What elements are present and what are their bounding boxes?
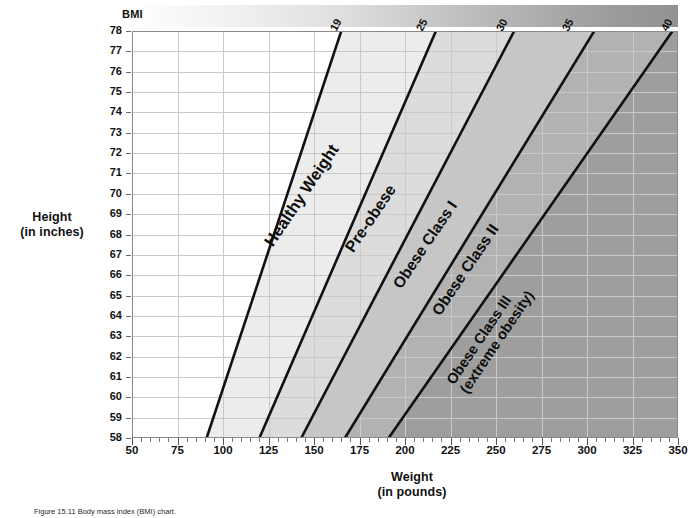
x-minor-tick [469,438,470,442]
x-tick-label-175: 175 [340,444,380,456]
x-tick-label-350: 350 [658,444,688,456]
x-tick-200 [405,438,406,445]
x-minor-tick [642,438,643,442]
x-tick-50 [132,438,133,445]
x-tick-100 [223,438,224,445]
x-axis-title-line1: Weight [332,470,492,485]
x-minor-tick [214,438,215,442]
x-minor-tick [159,438,160,442]
x-axis-title-line2: (in pounds) [332,485,492,500]
x-tick-label-325: 325 [613,444,653,456]
x-minor-tick [241,438,242,442]
x-tick-label-275: 275 [522,444,562,456]
y-tick-61 [126,377,131,378]
y-tick-63 [126,336,131,337]
y-tick-68 [126,235,131,236]
x-minor-tick [478,438,479,442]
x-tick-label-100: 100 [203,444,243,456]
x-minor-tick [387,438,388,442]
y-tick-76 [126,72,131,73]
x-tick-label-75: 75 [158,444,198,456]
y-tick-58 [126,438,131,439]
x-minor-tick [532,438,533,442]
x-minor-tick [369,438,370,442]
y-tick-label-78: 78 [96,24,122,36]
y-axis-title: Height (in inches) [0,210,104,240]
bmi-legend-title: BMI [122,8,143,20]
y-tick-72 [126,153,131,154]
y-tick-label-61: 61 [96,370,122,382]
y-tick-70 [126,194,131,195]
y-tick-60 [126,397,131,398]
x-minor-tick [551,438,552,442]
y-tick-label-70: 70 [96,187,122,199]
y-tick-62 [126,357,131,358]
x-minor-tick [605,438,606,442]
x-minor-tick [332,438,333,442]
y-tick-label-63: 63 [96,329,122,341]
x-minor-tick [560,438,561,442]
x-minor-tick [432,438,433,442]
y-tick-label-60: 60 [96,390,122,402]
x-minor-tick [487,438,488,442]
figure-caption: Figure 15.11 Body mass index (BMI) chart… [34,507,654,516]
y-tick-64 [126,316,131,317]
y-tick-77 [126,51,131,52]
x-tick-label-200: 200 [385,444,425,456]
plot-area: Healthy Weight Pre-obese Obese Class I O… [132,31,678,438]
x-minor-tick [341,438,342,442]
x-minor-tick [614,438,615,442]
x-tick-175 [360,438,361,445]
y-tick-label-76: 76 [96,65,122,77]
y-tick-label-74: 74 [96,105,122,117]
y-tick-label-73: 73 [96,126,122,138]
x-tick-label-125: 125 [249,444,289,456]
y-tick-label-59: 59 [96,411,122,423]
x-tick-125 [269,438,270,445]
y-tick-label-68: 68 [96,228,122,240]
gridlines [132,31,678,438]
x-minor-tick [305,438,306,442]
x-minor-tick [296,438,297,442]
bmi-chart-figure: Height (in inches) BMI 1925303540 Health… [0,0,688,518]
y-tick-label-72: 72 [96,146,122,158]
x-minor-tick [596,438,597,442]
y-axis-title-line2: (in inches) [0,225,104,240]
x-tick-225 [451,438,452,445]
x-minor-tick [396,438,397,442]
x-minor-tick [205,438,206,442]
x-tick-275 [542,438,543,445]
x-minor-tick [232,438,233,442]
x-tick-label-50: 50 [112,444,152,456]
x-minor-tick [505,438,506,442]
x-axis-title: Weight (in pounds) [332,470,492,500]
x-minor-tick [287,438,288,442]
x-minor-tick [378,438,379,442]
x-minor-tick [569,438,570,442]
y-tick-73 [126,133,131,134]
y-tick-label-75: 75 [96,85,122,97]
x-minor-tick [250,438,251,442]
bmi-legend-bar: BMI 1925303540 [132,5,678,27]
x-tick-325 [633,438,634,445]
x-tick-300 [587,438,588,445]
y-tick-75 [126,92,131,93]
x-minor-tick [323,438,324,442]
plot-svg [132,31,678,438]
y-tick-label-66: 66 [96,268,122,280]
y-tick-74 [126,112,131,113]
x-minor-tick [350,438,351,442]
x-minor-tick [669,438,670,442]
y-tick-label-69: 69 [96,207,122,219]
x-tick-150 [314,438,315,445]
y-tick-69 [126,214,131,215]
y-tick-label-71: 71 [96,166,122,178]
x-minor-tick [460,438,461,442]
y-axis-title-line1: Height [0,210,104,225]
y-tick-label-67: 67 [96,248,122,260]
x-minor-tick [623,438,624,442]
y-tick-label-65: 65 [96,289,122,301]
x-minor-tick [141,438,142,442]
x-tick-label-300: 300 [567,444,607,456]
x-minor-tick [150,438,151,442]
